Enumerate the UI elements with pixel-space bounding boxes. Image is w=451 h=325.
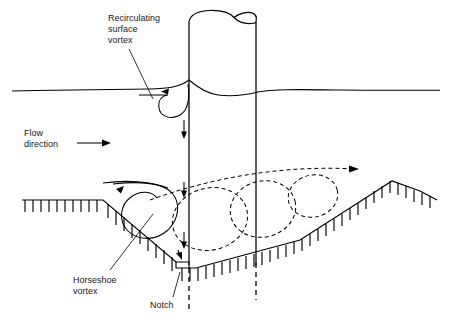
wake-vortex-loop-2 xyxy=(224,174,302,244)
downflow-arrow-4 xyxy=(176,250,182,260)
horseshoe-vortex-spiral xyxy=(113,183,178,239)
flow-direction-arrow xyxy=(77,140,111,147)
recirculating-surface-vortex-label: Recirculating surface vortex xyxy=(108,13,160,46)
downflow-arrow-2 xyxy=(181,182,187,198)
water-surface-line xyxy=(12,80,440,96)
horseshoe-vortex-label: Horseshoe vortex xyxy=(73,275,117,297)
notch-step xyxy=(176,262,189,268)
pier-top-back-rim xyxy=(234,18,256,24)
pier-top-front-rim xyxy=(189,10,234,22)
wake-vortex-loop-1 xyxy=(166,180,255,259)
downflow-arrow-1 xyxy=(181,120,187,139)
notch-leader-line xyxy=(173,272,180,297)
surface-vortex-leader-line xyxy=(129,49,153,99)
surface-vortex-arrowhead xyxy=(161,89,169,95)
wake-vortex-loops xyxy=(166,170,343,259)
downflow-arrows xyxy=(176,120,187,260)
flow-direction-label: Flow direction xyxy=(24,128,58,150)
pier-scour-diagram xyxy=(0,0,451,325)
horseshoe-vortex-arrowhead xyxy=(116,186,124,194)
notch-label: Notch xyxy=(150,300,174,311)
wake-vortex-loop-3 xyxy=(284,170,343,223)
streambed-profile xyxy=(22,181,437,268)
downflow-arrow-3 xyxy=(181,232,187,249)
